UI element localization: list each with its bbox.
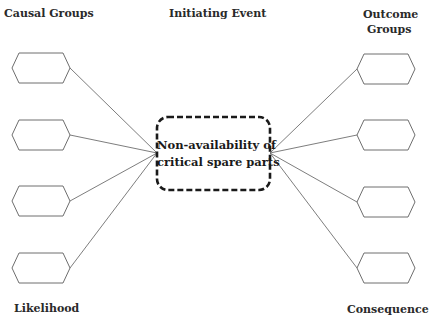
consequence-label: Consequence xyxy=(347,303,429,317)
initiating-event-text: Non-availability of critical spare parts xyxy=(157,137,270,171)
connector-outcome-4 xyxy=(270,153,357,268)
outcome-4-hexagon[interactable] xyxy=(357,253,415,283)
causal-groups-heading: Causal Groups xyxy=(4,7,94,21)
connector-cause-3 xyxy=(70,153,157,201)
likelihood-label: Likelihood xyxy=(14,302,79,316)
outcome-group-nodes xyxy=(357,54,415,283)
connector-outcome-1 xyxy=(270,69,357,153)
initiating-event-heading: Initiating Event xyxy=(169,7,266,21)
connector-outcome-2 xyxy=(270,135,357,153)
connector-cause-1 xyxy=(70,68,157,153)
connector-cause-4 xyxy=(70,153,157,268)
initiating-event-line1: Non-availability of xyxy=(157,137,270,154)
cause-4-hexagon[interactable] xyxy=(12,253,70,283)
causal-group-nodes xyxy=(12,53,70,283)
outcome-groups-heading-line2: Groups xyxy=(367,23,411,37)
outcome-3-hexagon[interactable] xyxy=(357,187,415,217)
connector-outcome-3 xyxy=(270,153,357,202)
outcome-groups-heading-line1: Outcome xyxy=(363,8,418,22)
connector-cause-2 xyxy=(70,135,157,153)
outcome-1-hexagon[interactable] xyxy=(357,54,415,84)
initiating-event-line2: critical spare parts xyxy=(157,154,270,171)
cause-3-hexagon[interactable] xyxy=(12,186,70,216)
outcome-connectors xyxy=(270,69,357,268)
causal-connectors xyxy=(70,68,157,268)
cause-2-hexagon[interactable] xyxy=(12,120,70,150)
outcome-2-hexagon[interactable] xyxy=(357,120,415,150)
cause-1-hexagon[interactable] xyxy=(12,53,70,83)
